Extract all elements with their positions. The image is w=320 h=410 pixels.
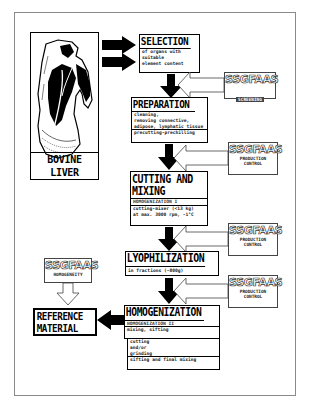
bovine-liver-panel: BOVINE LIVER bbox=[30, 32, 99, 180]
step-cutting-mixing: CUTTING AND MIXING HOMOGENIZATION I cutt… bbox=[130, 171, 208, 226]
step-detail: at max. 3000 rpm, -1°C bbox=[131, 212, 207, 218]
ssgfaas-label: SSGFAAS bbox=[229, 277, 277, 289]
ssgfaas-role: SCREENING bbox=[236, 97, 264, 102]
ssgfaas-role: HOMOGENEITY bbox=[45, 272, 91, 277]
step-detail: adipose, lymphatic tissue bbox=[132, 124, 207, 130]
reference-material-box: REFERENCE MATERIAL bbox=[33, 308, 97, 336]
ssgfaas-role: CONTROL bbox=[229, 242, 277, 247]
ssgfaas-role: CONTROL bbox=[229, 161, 277, 166]
ssgfaas-homogeneity-box: SSGFAAS HOMOGENEITY bbox=[44, 258, 92, 283]
step-title: PREPARATION bbox=[132, 98, 195, 112]
step-detail: in fractions (~800g) bbox=[126, 267, 218, 274]
arrow-left-icon bbox=[97, 310, 127, 334]
step-lyophilization: LYOPHILIZATION in fractions (~800g) bbox=[125, 251, 219, 276]
step-title: LYOPHILIZATION bbox=[126, 252, 205, 267]
ssgfaas-production-control-box: SSGFAAS PRODUCTION CONTROL bbox=[228, 275, 278, 308]
step-detail: element content bbox=[140, 61, 199, 67]
step-title: HOMOGENIZATION bbox=[125, 306, 204, 321]
step-footer: sifting and final mixing bbox=[128, 356, 219, 363]
step-title: SELECTION bbox=[140, 35, 191, 49]
step-title: CUTTING AND MIXING bbox=[131, 172, 207, 199]
ssgfaas-screening-box: SSGFAAS SCREENING bbox=[224, 72, 276, 99]
step-footer: precutting-prechilling bbox=[132, 129, 207, 136]
step-detail: mixing, sifting bbox=[125, 327, 219, 333]
ssgfaas-label: SSGFAAS bbox=[229, 225, 277, 237]
step-selection: SELECTION of organs with suitable elemen… bbox=[139, 34, 200, 73]
ssgfaas-production-control-box: SSGFAAS PRODUCTION CONTROL bbox=[228, 223, 278, 256]
hollow-arrow-down-icon bbox=[55, 283, 85, 309]
step-homogenization: HOMOGENIZATION HOMOGENIZATION II mixing,… bbox=[124, 305, 220, 339]
step-preparation: PREPARATION cleaning, removing connectiv… bbox=[131, 97, 208, 143]
ssgfaas-production-control-box: SSGFAAS PRODUCTION CONTROL bbox=[228, 142, 278, 175]
ssgfaas-label: SSGFAAS bbox=[225, 74, 275, 86]
ssgfaas-label: SSGFAAS bbox=[45, 260, 91, 272]
hollow-arrow-left-icon bbox=[172, 278, 230, 308]
ssgfaas-role: CONTROL bbox=[229, 294, 277, 299]
step-header: HOMOGENIZATION II bbox=[125, 321, 219, 328]
bovine-liver-label: BOVINE LIVER bbox=[31, 152, 98, 179]
arrow-right-icon bbox=[100, 53, 140, 83]
ssgfaas-label: SSGFAAS bbox=[229, 144, 277, 156]
homogenization-substeps: cutting and/or grinding sifting and fina… bbox=[127, 339, 220, 370]
step-header: HOMOGENIZATION I bbox=[131, 199, 207, 206]
bovine-liver-illustration bbox=[32, 34, 98, 166]
